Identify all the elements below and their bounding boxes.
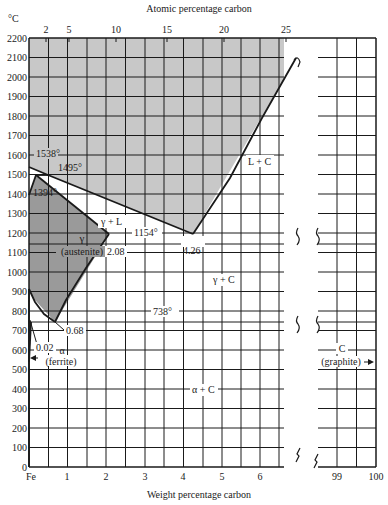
svg-text:2100: 2100: [7, 52, 27, 63]
svg-text:200: 200: [12, 423, 27, 434]
svg-text:1100: 1100: [7, 247, 27, 258]
svg-text:1200: 1200: [7, 228, 27, 239]
svg-text:1800: 1800: [7, 111, 27, 122]
temp-738: 738°: [153, 306, 172, 317]
comp-0.02: 0.02: [36, 342, 54, 353]
comp-2.08: 2.08: [107, 246, 125, 257]
phase-diagram: Atomic percentage carbon °C Weight perce…: [0, 0, 388, 505]
y-tick-labels: 2200 2100 2000 1900 1800 1700 1600 1500 …: [7, 33, 27, 473]
svg-text:400: 400: [12, 384, 27, 395]
svg-text:500: 500: [12, 364, 27, 375]
label-liquid-graphite: L + C: [248, 156, 271, 167]
label-graphite-c: C: [339, 343, 346, 354]
temp-1495: 1495°: [58, 162, 82, 173]
ferrite-arrow: [30, 355, 36, 361]
label-austenite: (austenite): [61, 246, 103, 258]
top-axis-label: Atomic percentage carbon: [146, 3, 252, 14]
temp-1538: 1538°: [36, 148, 60, 159]
svg-text:2200: 2200: [7, 33, 27, 44]
svg-text:900: 900: [12, 286, 27, 297]
svg-text:2: 2: [104, 471, 109, 482]
label-gamma-graphite: γ + C: [212, 274, 235, 285]
label-gamma: γ: [79, 232, 85, 244]
temp-1394: 1394°: [33, 187, 57, 198]
graphite-arrow: [368, 359, 374, 365]
svg-text:1900: 1900: [7, 91, 27, 102]
temp-1154: 1154°: [134, 227, 158, 238]
y-axis-unit: °C: [8, 13, 19, 24]
label-ferrite: (ferrite): [45, 356, 76, 368]
svg-text:10: 10: [111, 24, 121, 35]
svg-text:1: 1: [65, 471, 70, 482]
svg-text:700: 700: [12, 325, 27, 336]
svg-text:Fe: Fe: [26, 471, 37, 482]
svg-text:5: 5: [67, 24, 72, 35]
svg-text:1700: 1700: [7, 130, 27, 141]
svg-text:15: 15: [162, 24, 172, 35]
svg-text:4: 4: [181, 471, 186, 482]
svg-text:100: 100: [12, 442, 27, 453]
svg-text:1000: 1000: [7, 267, 27, 278]
comp-4.26: 4.26: [183, 245, 201, 256]
svg-text:1300: 1300: [7, 208, 27, 219]
svg-text:1500: 1500: [7, 169, 27, 180]
svg-text:800: 800: [12, 306, 27, 317]
svg-text:3: 3: [143, 471, 148, 482]
svg-text:25: 25: [281, 24, 291, 35]
svg-text:2000: 2000: [7, 72, 27, 83]
svg-text:600: 600: [12, 345, 27, 356]
x-tick-labels-bottom: Fe 1 2 3 4 5 6 99 100: [26, 471, 384, 482]
label-alpha-graphite: α + C: [192, 384, 215, 395]
svg-text:100: 100: [369, 471, 384, 482]
svg-text:1600: 1600: [7, 150, 27, 161]
x-tick-labels-top: 2 5 10 15 20 25: [44, 24, 292, 35]
label-graphite: (graphite): [321, 356, 360, 368]
svg-text:1400: 1400: [7, 189, 27, 200]
svg-text:99: 99: [332, 471, 342, 482]
label-gamma-liquid: γ + L: [100, 216, 122, 227]
svg-text:6: 6: [258, 471, 263, 482]
svg-text:2: 2: [44, 24, 49, 35]
svg-text:20: 20: [219, 24, 229, 35]
comp-0.68: 0.68: [66, 325, 84, 336]
svg-text:5: 5: [220, 471, 225, 482]
svg-text:300: 300: [12, 403, 27, 414]
label-alpha: α: [59, 345, 65, 356]
x-axis-label: Weight percentage carbon: [147, 489, 251, 500]
